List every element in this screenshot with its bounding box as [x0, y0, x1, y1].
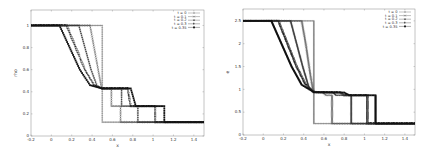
series-t0 [242, 20, 416, 125]
y-tick-label: 2.5 [235, 18, 242, 23]
legend: t = 0t = 0.1t = 0.2t = 0.3t = 0.35 [383, 10, 411, 28]
x-tick-label: 0 [50, 137, 53, 142]
x-axis-label: x [328, 142, 331, 147]
chart-1: -0.200.20.40.60.811.21.400.20.40.60.81xr… [13, 10, 205, 148]
y-axis-label: rho [13, 69, 18, 77]
series-t0_35 [30, 25, 205, 124]
series-t0_35 [242, 20, 416, 125]
series-t0_2 [30, 25, 205, 124]
figure: -0.200.20.40.60.811.21.400.20.40.60.81xr… [0, 0, 427, 156]
y-tick-label: 0.6 [23, 67, 30, 72]
chart-2: -0.200.20.40.60.811.21.400.511.522.5xet … [225, 9, 416, 147]
y-tick-label: 0.4 [23, 89, 30, 94]
x-tick-label: 0 [262, 136, 265, 141]
y-tick-label: 0.5 [235, 109, 242, 114]
series-t0_3 [30, 25, 205, 123]
x-tick-label: 1.4 [191, 137, 198, 142]
y-axis-label: e [225, 70, 230, 73]
y-tick-label: 1 [26, 23, 29, 28]
series-t0_1 [30, 25, 205, 124]
x-tick-label: 0.2 [280, 136, 287, 141]
x-tick-label: 0.4 [301, 136, 308, 141]
series-t0_2 [242, 20, 416, 125]
x-tick-label: 0.8 [130, 137, 137, 142]
y-tick-label: 0.2 [23, 111, 30, 116]
legend: t = 0t = 0.1t = 0.2t = 0.3t = 0.35 [172, 11, 200, 29]
series-t0_3 [242, 20, 416, 124]
legend-label: t = 0.35 [383, 25, 398, 29]
x-tick-label: 0.8 [341, 136, 348, 141]
legend-label: t = 0.35 [172, 26, 187, 30]
series-t0 [30, 25, 205, 124]
x-axis-label: x [116, 143, 119, 148]
x-tick-label: 0.4 [89, 137, 96, 142]
x-tick-label: 0.2 [69, 137, 76, 142]
x-tick-label: 1.4 [402, 136, 409, 141]
y-tick-label: 2 [238, 41, 241, 46]
x-tick-label: 0.6 [109, 137, 116, 142]
y-tick-label: 0.8 [23, 45, 30, 50]
y-tick-label: 1.5 [235, 64, 242, 69]
x-tick-label: 0.6 [321, 136, 328, 141]
x-tick-label: 1 [363, 136, 366, 141]
series-t0_1 [242, 20, 416, 125]
x-tick-label: 1 [152, 137, 155, 142]
plots-canvas: -0.200.20.40.60.811.21.400.20.40.60.81xr… [0, 0, 427, 156]
x-tick-label: 1.2 [381, 136, 388, 141]
x-tick-label: 1.2 [170, 137, 177, 142]
y-tick-label: 1 [238, 87, 241, 92]
